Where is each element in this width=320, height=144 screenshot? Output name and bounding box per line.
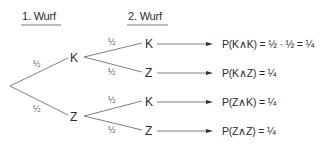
tree-diagram: 1. Wurf 2. Wurf K Z ½ ½ K Z K Z ½ ½ ½ ½ … [0, 0, 320, 144]
prob-level2-zz: ½ [108, 126, 116, 135]
header-second-throw: 2. Wurf [128, 11, 162, 22]
node-level2-kk: K [145, 38, 153, 50]
prob-level1-k: ½ [33, 60, 41, 69]
header-first-throw: 1. Wurf [22, 11, 56, 22]
node-level1-k: K [70, 52, 78, 64]
prob-level1-z: ½ [33, 105, 41, 114]
arrowhead-icon [206, 129, 213, 133]
arrowhead-icon [206, 42, 213, 46]
arrowhead-icon [206, 71, 213, 75]
node-level1-z: Z [70, 111, 77, 123]
prob-level2-kk: ½ [108, 38, 116, 47]
arrowhead-icon [206, 100, 213, 104]
node-level2-zz: Z [145, 125, 152, 137]
result-kz: P(K∧Z) = ¼ [222, 68, 276, 79]
node-level2-zk: K [145, 96, 153, 108]
result-zz: P(Z∧Z) = ¼ [222, 126, 276, 137]
node-level2-kz: Z [145, 67, 152, 79]
result-zk: P(Z∧K) = ¼ [222, 97, 276, 108]
result-kk: P(K∧K) = ½ · ½ = ¼ [222, 39, 314, 50]
prob-level2-zk: ½ [108, 96, 116, 105]
prob-level2-kz: ½ [108, 68, 116, 77]
